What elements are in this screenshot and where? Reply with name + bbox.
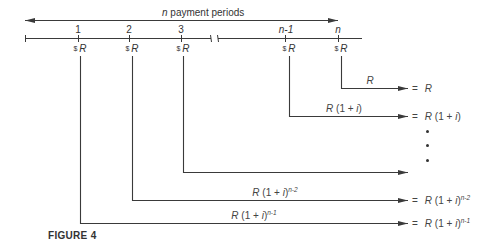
span-text: payment periods [168, 7, 245, 18]
tick-label-n: n [335, 25, 341, 35]
flow-label-n-1: R (1 + i) [326, 104, 362, 114]
payment-n-1: $R [282, 44, 295, 54]
ellipsis-dot [426, 159, 429, 162]
tick-label-3: 3 [178, 25, 184, 35]
payment-n: $R [334, 44, 347, 54]
period-span-label: n payment periods [162, 8, 244, 18]
tick-label-1: 1 [75, 25, 81, 35]
payment-1: $R [73, 44, 86, 54]
ellipsis-dot [426, 130, 429, 133]
timeline-axis [25, 35, 362, 42]
payment-2: $R [125, 44, 138, 54]
flow-label-1: R (1 + i)n-1 [231, 211, 276, 221]
payment-3: $R [176, 44, 189, 54]
flow-label-n: R [366, 76, 373, 86]
tick-label-n-1: n-1 [279, 25, 293, 35]
result-n-1: =R (1 + i) [412, 112, 461, 122]
tick-label-2: 2 [126, 25, 132, 35]
result-n: =R [412, 84, 432, 94]
flow-lines [81, 56, 409, 224]
diagram-lines [0, 0, 503, 245]
ellipsis-dot [426, 144, 429, 147]
result-1: =R (1 + i)n-1 [412, 219, 470, 229]
result-2: =R (1 + i)n-2 [412, 196, 470, 206]
figure-caption: FIGURE 4 [48, 230, 97, 241]
flow-label-2: R (1 + i)n-2 [252, 188, 297, 198]
